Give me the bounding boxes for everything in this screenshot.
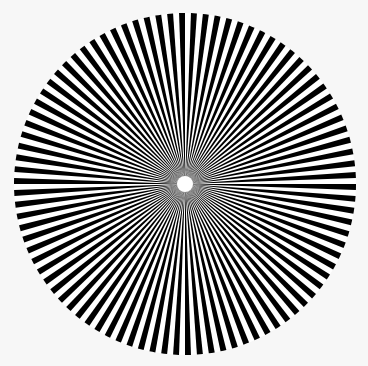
center-dot [177, 176, 193, 192]
siemens-star-pattern [0, 0, 368, 366]
